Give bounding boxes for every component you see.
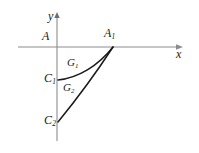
figure-drawing — [0, 0, 199, 153]
curve-label-g2-base: G — [63, 81, 71, 93]
curve-label-g2: G2 — [63, 82, 74, 93]
point-label-c1-subscript: 1 — [52, 77, 56, 86]
point-label-a1-subscript: 1 — [111, 32, 115, 41]
point-label-c2-base: C — [44, 113, 52, 127]
curve-label-g2-subscript: 2 — [71, 87, 74, 94]
point-label-c2-subscript: 2 — [52, 119, 56, 128]
y-axis-arrowhead — [54, 12, 59, 18]
point-label-c2: C2 — [44, 114, 56, 126]
y-axis-label: y — [48, 10, 53, 22]
curve-label-g1: G1 — [67, 57, 78, 68]
figure-canvas: y x A A1 C1 C2 G1 G2 — [0, 0, 199, 153]
curve-label-g1-subscript: 1 — [75, 62, 78, 69]
point-label-c1: C1 — [44, 72, 56, 84]
point-label-a: A — [42, 30, 49, 42]
point-label-c1-base: C — [44, 71, 52, 85]
x-axis-label: x — [176, 48, 181, 60]
curve-label-g1-base: G — [67, 56, 75, 68]
point-label-a1: A1 — [104, 27, 115, 39]
point-label-a-base: A — [42, 29, 49, 43]
